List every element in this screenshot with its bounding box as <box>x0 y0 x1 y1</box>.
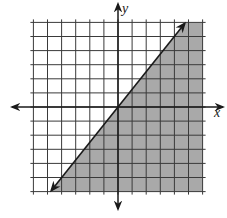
x-axis-label: x <box>214 106 220 120</box>
coordinate-plane <box>0 0 227 218</box>
y-axis-label: y <box>122 2 128 16</box>
